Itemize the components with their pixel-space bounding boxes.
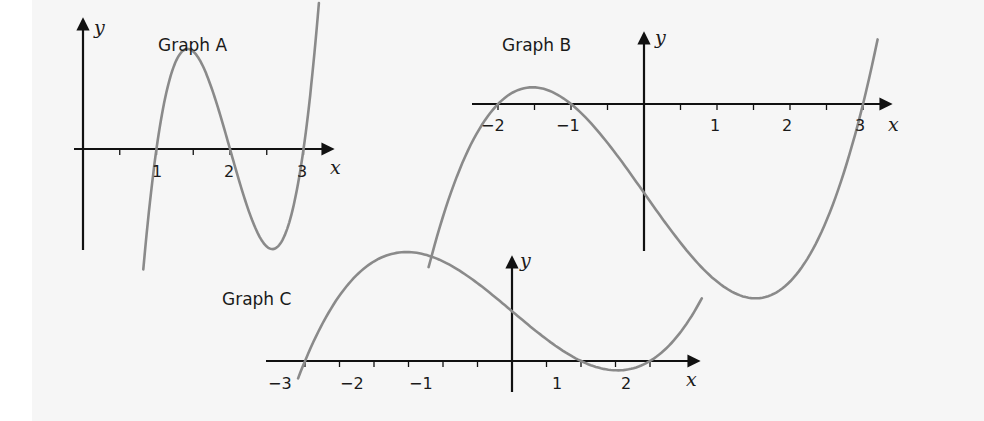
graph-a-tick-1: 1 (152, 162, 162, 181)
graph-c-x-label: x (686, 368, 697, 390)
graph-b-title: Graph B (502, 35, 571, 55)
graph-c-tick-1: 1 (552, 374, 562, 393)
graph-b-tick-3: 3 (855, 116, 865, 135)
graph-b-tick-1: 1 (710, 116, 720, 135)
graph-a: y x Graph A 1 2 3 (74, 3, 341, 269)
graph-c-tick-2: 2 (621, 374, 631, 393)
graph-b-tick-2: 2 (782, 116, 792, 135)
graph-b-curve (429, 39, 878, 298)
graph-b-x-label: x (888, 113, 899, 135)
graph-c-tick-neg3: −3 (268, 374, 292, 393)
graph-c-curve (298, 252, 702, 378)
graph-b-tick-neg2: −2 (481, 116, 505, 135)
graph-c: y x Graph C −3 −2 −1 1 2 (222, 249, 702, 393)
graph-c-tick-neg1: −1 (409, 374, 433, 393)
graph-c-y-label: y (519, 249, 531, 271)
graph-a-x-label: x (330, 156, 341, 178)
graph-b: y x Graph B −2 −1 1 2 3 (429, 26, 899, 298)
graph-a-tick-3: 3 (297, 162, 307, 181)
graph-a-title: Graph A (158, 35, 228, 55)
graph-b-tick-neg1: −1 (556, 116, 580, 135)
graph-a-tick-2: 2 (224, 162, 234, 181)
graph-c-tick-neg2: −2 (340, 374, 364, 393)
graph-a-y-label: y (93, 16, 105, 38)
graph-c-title: Graph C (222, 289, 291, 309)
cubic-graphs-figure: y x Graph A 1 2 3 y x Graph B −2 −1 1 2 … (0, 0, 984, 421)
graph-b-y-label: y (654, 26, 666, 48)
